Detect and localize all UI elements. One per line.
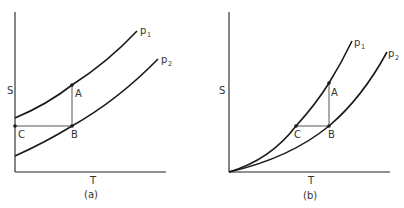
panel-b-point-C: [294, 124, 298, 128]
svg-text:p: p: [354, 37, 360, 48]
panel-a-point-C: [13, 124, 17, 128]
panel-a-label-p2: p 2: [161, 54, 172, 68]
svg-text:p: p: [140, 25, 146, 36]
panel-a-label-p1: p 1: [140, 25, 151, 39]
panel-b-curve-p1: [229, 41, 352, 172]
panel-a-point-A: [70, 83, 74, 87]
panel-b-x-label: T: [307, 175, 315, 186]
panel-b-point-B: [327, 124, 331, 128]
panel-b-point-A: [327, 81, 331, 85]
panel-a-label-A: A: [75, 88, 82, 99]
svg-text:1: 1: [147, 31, 151, 39]
svg-text:p: p: [161, 54, 167, 65]
panel-a-point-B: [70, 124, 74, 128]
svg-text:p: p: [388, 48, 394, 59]
svg-text:2: 2: [395, 54, 399, 62]
panel-b-label-B: B: [328, 129, 335, 140]
panel-a-label-B: B: [71, 129, 78, 140]
panel-b-y-label: S: [219, 85, 225, 96]
panel-a-curve-p1: [15, 31, 137, 118]
panel-b-label-p2: p 2: [388, 48, 399, 62]
figure-canvas: A B C S T (a) p 1 p 2 A B C S T (b) p: [0, 0, 404, 208]
panel-a-label-C: C: [18, 129, 25, 140]
panel-a-x-label: T: [89, 175, 97, 186]
panel-b-label-C: C: [294, 129, 301, 140]
panel-b-caption: (b): [303, 190, 317, 201]
panel-a-y-label: S: [7, 85, 13, 96]
svg-text:1: 1: [361, 43, 365, 51]
panel-b-label-A: A: [331, 87, 338, 98]
panel-b: A B C S T (b) p 1 p 2: [219, 12, 399, 201]
panel-a-caption: (a): [84, 189, 98, 200]
panel-b-label-p1: p 1: [354, 37, 365, 51]
panel-a: A B C S T (a) p 1 p 2: [7, 12, 172, 200]
svg-text:2: 2: [168, 60, 172, 68]
